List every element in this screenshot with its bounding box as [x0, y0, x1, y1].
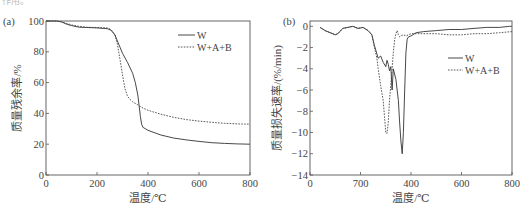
y-tick-label: 0 [303, 21, 308, 32]
y-tick-label: 60 [34, 77, 45, 88]
legend-a: W W+A+B [178, 30, 232, 53]
x-tick-label: 200 [89, 178, 105, 189]
y-tick-label: −14 [292, 170, 309, 181]
x-tick-label: 700 [353, 178, 369, 189]
y-tick-label: −10 [292, 127, 308, 138]
x-tick-label: 600 [454, 178, 470, 189]
y-tick-label: −8 [297, 106, 308, 117]
x-axis-title-a: 温度/℃ [129, 191, 166, 204]
x-tick-label: 800 [242, 178, 258, 189]
chart-b-group: (b) 0−2−4−6−8−10−12−14 0700400600800 W W… [270, 16, 520, 204]
legend-b: W W+A+B [448, 53, 500, 76]
series-wab-dtg-line [320, 26, 512, 133]
y-tick-label: −4 [297, 63, 309, 74]
panel-label-b: (b) [283, 16, 296, 28]
x-tick-label: 400 [140, 178, 156, 189]
series-w-line [46, 21, 250, 144]
y-axis-title-a: 质量残余率/% [10, 64, 23, 131]
chart-a-tga: (a) 020406080100 0200400600800 W W+A+B 温… [0, 0, 531, 213]
legend-label-w: W [197, 30, 207, 41]
legend-label-w-b: W [465, 53, 475, 64]
panel-label-a: (a) [3, 16, 15, 28]
y-tick-label: 100 [28, 16, 44, 27]
y-tick-label: −6 [297, 85, 308, 96]
y-tick-label: 40 [34, 108, 45, 119]
figure: 作用。 (a) 020406080100 0200400600800 W W+A… [0, 0, 531, 213]
x-tick-label: 0 [43, 178, 48, 189]
x-axis-title-b: 温度/℃ [392, 191, 429, 204]
x-tick-label: 0 [307, 178, 312, 189]
y-tick-label: −2 [297, 42, 308, 53]
plot-frame-b [310, 21, 512, 175]
x-tick-label: 400 [403, 178, 419, 189]
legend-label-wab-b: W+A+B [465, 65, 500, 76]
legend-label-wab: W+A+B [197, 42, 232, 53]
chart-a-group: (a) 020406080100 0200400600800 W W+A+B 温… [3, 16, 258, 205]
y-tick-label: 80 [34, 46, 45, 57]
x-tick-label: 600 [191, 178, 207, 189]
y-axis-title-b: 质量损失速率/(%/min) [270, 45, 284, 151]
x-tick-label: 800 [504, 178, 520, 189]
y-tick-label: −12 [292, 148, 308, 159]
series-w-dtg-line [320, 26, 512, 154]
series-wab-line [46, 21, 250, 124]
y-tick-label: 20 [34, 139, 45, 150]
